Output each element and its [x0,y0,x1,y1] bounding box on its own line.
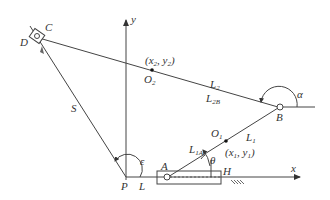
label-S: S [71,102,77,114]
coord-x2y2: (x2, y2) [145,54,175,68]
label-A: A [160,160,168,172]
label-L2B: L2B [205,92,221,106]
ground-hatch-icon [231,180,244,184]
label-O1: O1 [211,127,222,141]
mechanism-diagram: y x C D S P L ε A H θ B α [0,0,330,200]
label-D: D [19,36,28,48]
coord-x1y1: (x1, y1) [225,146,255,160]
label-L1: L1 [245,131,256,145]
label-epsilon: ε [140,155,145,167]
label-L1A: L1A [188,143,204,157]
label-theta: θ [210,154,216,166]
x-axis-label: x [290,162,296,174]
label-C: C [45,21,53,33]
pin-A-icon [164,174,170,180]
point-O2-icon [150,68,154,72]
label-L2: L2 [209,78,220,92]
label-H: H [222,165,232,177]
link-S [30,26,126,177]
pin-B-icon [277,104,283,110]
pin-C-icon [35,34,40,39]
label-B: B [276,111,283,123]
label-P: P [120,180,128,192]
y-axis-label: y [130,13,136,25]
point-O1-icon [224,139,228,143]
label-alpha: α [297,88,303,100]
label-O2: O2 [144,73,156,87]
label-L: L [138,180,145,192]
